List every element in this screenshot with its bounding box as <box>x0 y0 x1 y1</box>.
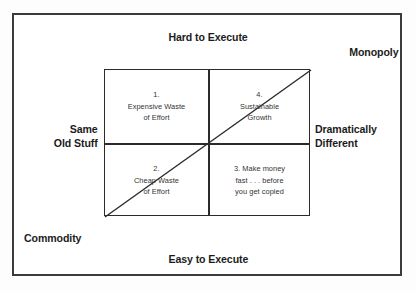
quadrant-1: 1. Expensive Waste of Effort <box>105 70 208 143</box>
matrix-figure: Hard to Execute Monopoly Same Old Stuff … <box>0 0 416 292</box>
quadrant-2-number: 2. <box>153 163 159 175</box>
quadrant-4-line1: Sustainable <box>240 101 279 113</box>
quadrant-1-line2: of Effort <box>143 112 169 124</box>
axis-label-right: Dramatically Different <box>315 122 377 150</box>
axis-label-top: Hard to Execute <box>0 30 416 44</box>
axis-label-left: Same Old Stuff <box>54 122 98 150</box>
quadrant-3-number: 3. Make money <box>234 163 285 175</box>
quadrant-2: 2. Cheap Waste of Effort <box>105 144 208 217</box>
axis-label-bottom-text: Easy to Execute <box>168 252 248 266</box>
axis-label-right-line1: Dramatically <box>315 122 377 136</box>
quadrant-3: 3. Make money fast . . . before you get … <box>208 144 311 217</box>
axis-label-left-line2: Old Stuff <box>54 136 98 150</box>
quadrant-3-line1: fast . . . before <box>235 175 283 187</box>
axis-label-bottom: Easy to Execute <box>0 252 416 266</box>
quadrant-4: 4. Sustainable Growth <box>208 70 311 143</box>
quadrant-matrix: 1. Expensive Waste of Effort 4. Sustaina… <box>104 69 310 216</box>
quadrant-4-number: 4. <box>256 89 262 101</box>
axis-label-left-line1: Same <box>54 122 98 136</box>
corner-label-commodity: Commodity <box>24 231 81 245</box>
quadrant-2-line2: of Effort <box>143 186 169 198</box>
axis-label-right-line2: Different <box>315 136 377 150</box>
corner-label-monopoly: Monopoly <box>349 45 398 59</box>
quadrant-2-line1: Cheap Waste <box>134 175 179 187</box>
quadrant-3-line2: you get copied <box>235 186 284 198</box>
axis-label-top-text: Hard to Execute <box>168 30 247 44</box>
quadrant-1-line1: Expensive Waste <box>128 101 186 113</box>
quadrant-1-number: 1. <box>153 89 159 101</box>
quadrant-4-line2: Growth <box>247 112 271 124</box>
